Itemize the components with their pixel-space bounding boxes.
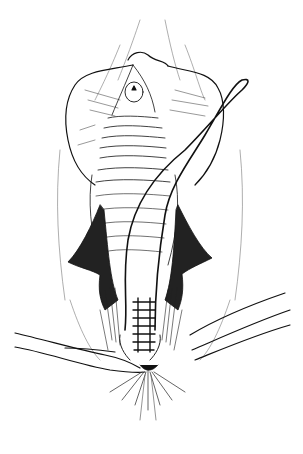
wound-edges <box>68 205 212 310</box>
upper-hatching <box>78 90 208 145</box>
upper-tissue <box>66 52 224 185</box>
surgical-illustration <box>0 0 303 454</box>
illustration <box>0 0 303 454</box>
suture-line <box>133 298 155 352</box>
suture-threads <box>15 293 290 372</box>
loop-suture <box>125 79 248 330</box>
bottom-folds <box>110 365 185 420</box>
